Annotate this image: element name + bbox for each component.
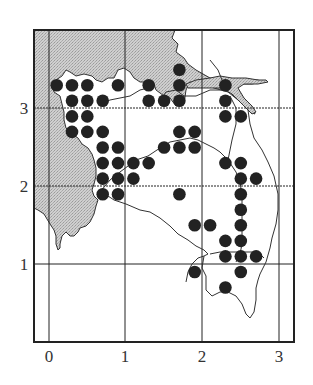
occurrence-dot bbox=[173, 188, 186, 201]
occurrence-dot bbox=[219, 79, 232, 92]
y-tick-2: 2 bbox=[20, 177, 29, 196]
y-axis-labels: 3 2 1 bbox=[20, 99, 29, 274]
occurrence-dot bbox=[142, 95, 155, 108]
occurrence-dot bbox=[158, 141, 171, 154]
occurrence-dot bbox=[127, 157, 140, 170]
occurrence-dot bbox=[219, 250, 232, 263]
occurrence-dot bbox=[173, 126, 186, 139]
occurrence-dot bbox=[219, 157, 232, 170]
boundary-lines bbox=[100, 60, 278, 318]
occurrence-dot bbox=[96, 95, 109, 108]
occurrence-dot bbox=[188, 126, 201, 139]
occurrence-dot bbox=[96, 188, 109, 201]
occurrence-dot bbox=[219, 110, 232, 123]
occurrence-dot bbox=[235, 235, 248, 248]
occurrence-dot bbox=[250, 250, 263, 263]
distribution-map: 0 1 2 3 3 2 1 bbox=[0, 0, 313, 385]
x-axis-labels: 0 1 2 3 bbox=[45, 347, 284, 366]
x-tick-0: 0 bbox=[45, 347, 54, 366]
occurrence-dot bbox=[219, 95, 232, 108]
occurrence-dot bbox=[188, 219, 201, 232]
y-tick-1: 1 bbox=[20, 255, 29, 274]
occurrence-dot bbox=[235, 172, 248, 185]
occurrence-dot bbox=[173, 63, 186, 76]
occurrence-dot bbox=[112, 141, 125, 154]
occurrence-dot bbox=[112, 157, 125, 170]
occurrence-dot bbox=[66, 79, 79, 92]
x-tick-2: 2 bbox=[198, 347, 207, 366]
x-tick-1: 1 bbox=[121, 347, 130, 366]
occurrence-dot bbox=[112, 172, 125, 185]
occurrence-dot bbox=[173, 141, 186, 154]
shaded-land-region bbox=[34, 30, 262, 250]
occurrence-dot bbox=[235, 266, 248, 279]
occurrence-dot bbox=[235, 188, 248, 201]
occurrence-dot bbox=[50, 79, 63, 92]
occurrence-dot bbox=[112, 79, 125, 92]
occurrence-dot bbox=[66, 126, 79, 139]
occurrence-dot bbox=[96, 172, 109, 185]
x-tick-3: 3 bbox=[275, 347, 284, 366]
occurrence-dot bbox=[158, 95, 171, 108]
occurrence-dot bbox=[219, 281, 232, 294]
occurrence-dot bbox=[96, 126, 109, 139]
occurrence-dot bbox=[142, 157, 155, 170]
occurrence-dot bbox=[81, 126, 94, 139]
occurrence-dot bbox=[250, 172, 263, 185]
occurrence-dot bbox=[81, 79, 94, 92]
occurrence-dot bbox=[127, 172, 140, 185]
occurrence-dot bbox=[96, 141, 109, 154]
occurrence-dot bbox=[66, 110, 79, 123]
occurrence-dot bbox=[66, 95, 79, 108]
occurrence-dot bbox=[219, 235, 232, 248]
occurrence-dot bbox=[235, 250, 248, 263]
occurrence-dot bbox=[96, 157, 109, 170]
occurrence-dot bbox=[112, 188, 125, 201]
occurrence-dot bbox=[188, 141, 201, 154]
y-tick-3: 3 bbox=[20, 99, 29, 118]
occurrence-dot bbox=[235, 203, 248, 216]
occurrence-dot bbox=[81, 110, 94, 123]
occurrence-dot bbox=[173, 79, 186, 92]
occurrence-dot bbox=[142, 79, 155, 92]
occurrence-dot bbox=[173, 95, 186, 108]
occurrence-dot bbox=[235, 219, 248, 232]
occurrence-dot bbox=[204, 219, 217, 232]
occurrence-dot bbox=[235, 157, 248, 170]
occurrence-dot bbox=[188, 266, 201, 279]
occurrence-dot bbox=[235, 110, 248, 123]
occurrence-dot bbox=[81, 95, 94, 108]
